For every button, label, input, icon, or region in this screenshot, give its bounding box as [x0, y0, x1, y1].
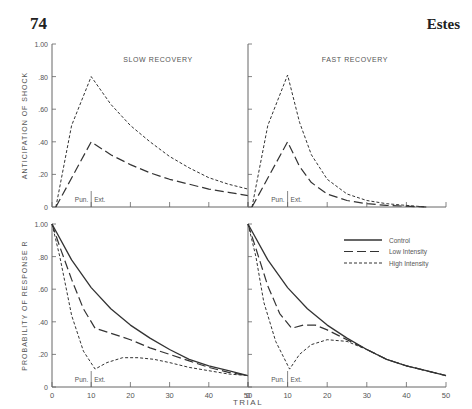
- legend-label: High Intensity: [389, 260, 429, 268]
- y-tick-label: 0: [44, 384, 48, 391]
- x-tick-label: 40: [205, 391, 213, 400]
- y-tick-label: .20: [38, 351, 48, 358]
- panel-top-right: Pun.Ext.FAST RECOVERY: [248, 44, 446, 207]
- panel-top-left: 0.20.40.60.801.00Pun.Ext.SLOW RECOVERYAN…: [21, 41, 248, 211]
- y-tick-label: .40: [38, 139, 48, 146]
- phase-label-extinction: Ext.: [291, 196, 302, 203]
- y-axis-label: PROBABILITY OF RESPONSE R: [21, 240, 28, 370]
- x-tick-label: 20: [126, 391, 134, 400]
- phase-label-punishment: Pun.: [271, 376, 285, 383]
- series-high-intensity: [252, 75, 426, 207]
- phase-label-extinction: Ext.: [94, 196, 105, 203]
- legend: ControlLow IntensityHigh Intensity: [344, 237, 429, 268]
- x-tick-label: 0: [50, 391, 54, 400]
- phase-label-punishment: Pun.: [271, 196, 285, 203]
- phase-label-punishment: Pun.: [75, 376, 89, 383]
- x-tick-label: 20: [323, 391, 331, 400]
- series-low-intensity: [248, 224, 446, 376]
- legend-label: Control: [389, 237, 411, 244]
- y-tick-label: 0: [44, 204, 48, 211]
- x-axis-label: TRIAL: [233, 398, 263, 407]
- x-tick-label: 10: [283, 391, 291, 400]
- x-tick-label: 10: [87, 391, 95, 400]
- phase-label-extinction: Ext.: [291, 376, 302, 383]
- panel-title: FAST RECOVERY: [322, 56, 388, 63]
- phase-label-extinction: Ext.: [94, 376, 105, 383]
- y-tick-label: .40: [38, 319, 48, 326]
- series-low-intensity: [52, 224, 248, 376]
- y-axis-label: ANTICIPATION OF SHOCK: [21, 72, 28, 179]
- phase-label-punishment: Pun.: [75, 196, 89, 203]
- legend-label: Low Intensity: [389, 248, 428, 256]
- y-tick-label: 1.00: [34, 41, 48, 48]
- y-tick-label: .60: [38, 106, 48, 113]
- chart-panels: 0.20.40.60.801.00Pun.Ext.SLOW RECOVERYAN…: [21, 41, 450, 400]
- series-control: [52, 224, 248, 376]
- y-tick-label: 1.00: [34, 221, 48, 228]
- panel-title: SLOW RECOVERY: [123, 56, 193, 63]
- series-high-intensity: [248, 224, 446, 376]
- panel-bottom-left: 0.20.40.60.801.0001020304050Pun.Ext.PROB…: [21, 221, 252, 400]
- series-control: [248, 224, 446, 376]
- x-tick-label: 30: [165, 391, 173, 400]
- y-tick-label: .80: [38, 74, 48, 81]
- x-tick-label: 40: [402, 391, 410, 400]
- y-tick-label: .60: [38, 286, 48, 293]
- x-tick-label: 30: [363, 391, 371, 400]
- y-tick-label: .20: [38, 171, 48, 178]
- x-tick-label: 50: [442, 391, 450, 400]
- series-high-intensity: [56, 77, 248, 207]
- y-tick-label: .80: [38, 254, 48, 261]
- series-high-intensity: [52, 224, 248, 376]
- figure: 0.20.40.60.801.00Pun.Ext.SLOW RECOVERYAN…: [0, 0, 472, 409]
